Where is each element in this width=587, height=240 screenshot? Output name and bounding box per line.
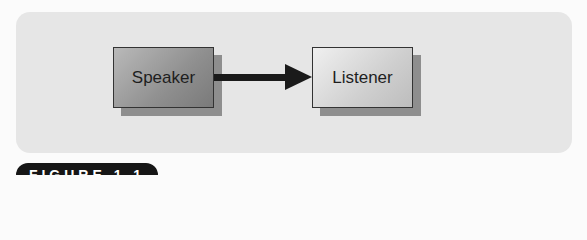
arrow-shaft	[214, 74, 290, 81]
speaker-node: Speaker	[113, 47, 214, 108]
speaker-label: Speaker	[132, 68, 195, 88]
arrow-head-icon	[285, 64, 312, 90]
figure-label: FIGURE 1.1	[16, 163, 158, 175]
listener-label: Listener	[332, 68, 392, 88]
listener-node: Listener	[312, 47, 413, 108]
